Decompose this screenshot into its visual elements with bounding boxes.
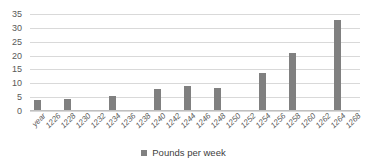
legend-label: Pounds per week	[152, 148, 225, 158]
bar	[109, 96, 116, 110]
x-axis-tick-label: 1226	[44, 112, 62, 130]
bar-chart: 05101520253035 year122612281230123212341…	[0, 0, 367, 167]
x-axis-tick-label: 1250	[224, 112, 242, 130]
x-axis-tick-label: 1254	[254, 112, 272, 130]
x-axis-tick-label: 1244	[179, 112, 197, 130]
x-axis-tick-label: 1238	[134, 112, 152, 130]
x-axis-tick-label: 1240	[149, 112, 167, 130]
bar	[334, 20, 341, 110]
bar	[289, 53, 296, 110]
y-axis-tick-label: 20	[12, 51, 22, 60]
x-axis-tick-label: 1248	[209, 112, 227, 130]
y-axis-tick-label: 15	[12, 65, 22, 74]
x-axis-tick-label: 1256	[269, 112, 287, 130]
x-axis-tick-label: 1234	[104, 112, 122, 130]
x-axis-tick-label: year	[30, 112, 47, 129]
bar	[34, 100, 41, 110]
chart-legend: Pounds per week	[0, 148, 367, 158]
y-axis-tick-label: 35	[12, 10, 22, 19]
bar	[259, 73, 266, 110]
x-axis-tick-label: 1268	[344, 112, 362, 130]
y-axis: 05101520253035	[0, 14, 26, 111]
y-axis-tick-label: 5	[17, 93, 22, 102]
bar	[214, 88, 221, 110]
x-axis-tick-label: 1236	[119, 112, 137, 130]
x-axis-tick-label: 1232	[89, 112, 107, 130]
y-axis-tick-label: 25	[12, 37, 22, 46]
x-axis-tick-label: 1252	[239, 112, 257, 130]
bar	[64, 99, 71, 110]
y-axis-tick-label: 30	[12, 23, 22, 32]
x-axis-tick-label: 1242	[164, 112, 182, 130]
x-axis-tick-label: 1228	[59, 112, 77, 130]
x-axis-tick-label: 1260	[299, 112, 317, 130]
bar	[154, 89, 161, 110]
x-axis: year122612281230123212341236123812401242…	[30, 112, 360, 145]
x-axis-tick-label: 1258	[284, 112, 302, 130]
y-axis-tick-label: 10	[12, 79, 22, 88]
x-axis-tick-label: 1262	[314, 112, 332, 130]
legend-swatch-icon	[141, 150, 147, 156]
x-axis-tick-label: 1230	[74, 112, 92, 130]
y-axis-tick-label: 0	[17, 107, 22, 116]
x-axis-tick-label: 1246	[194, 112, 212, 130]
bar	[184, 86, 191, 110]
x-axis-tick-label: 1264	[329, 112, 347, 130]
bars-layer	[30, 14, 360, 111]
